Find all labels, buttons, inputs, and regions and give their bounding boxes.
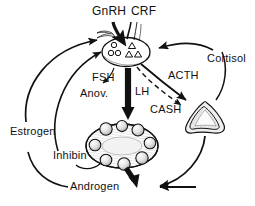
polycystic-ovary bbox=[86, 120, 158, 170]
label-inhibin: Inhibin bbox=[53, 150, 87, 161]
crf-line-2 bbox=[134, 22, 137, 40]
gnrh-arrow bbox=[113, 22, 122, 40]
estrogen-to-pituitary-arrow bbox=[26, 40, 97, 122]
diagram-canvas bbox=[0, 0, 255, 206]
label-androgen: Androgen bbox=[70, 181, 119, 192]
ovary-to-inhibin-line bbox=[76, 164, 100, 169]
adrenal-to-androgen-arrow bbox=[160, 136, 205, 186]
endocrine-feedback-diagram: GnRH CRF FSH Anov. LH ACTH CASH Cortisol… bbox=[0, 0, 255, 206]
crf-line-1 bbox=[127, 22, 131, 39]
lh-arrow-head bbox=[122, 107, 135, 120]
label-estrogen: Estrogen bbox=[10, 126, 56, 137]
label-anov: Anov. bbox=[80, 88, 108, 99]
crf-line-3 bbox=[139, 24, 141, 41]
label-crf: CRF bbox=[131, 5, 156, 17]
pituitary-gland bbox=[97, 31, 150, 66]
adrenal-gland bbox=[186, 102, 225, 134]
cortisol-to-pituitary-arrow bbox=[159, 43, 213, 50]
label-cortisol: Cortisol bbox=[207, 53, 246, 64]
label-lh: LH bbox=[135, 86, 149, 97]
label-fsh: FSH bbox=[92, 72, 115, 83]
label-acth: ACTH bbox=[168, 70, 199, 81]
label-cash: CASH bbox=[150, 104, 181, 115]
label-gnrh: GnRH bbox=[92, 5, 126, 17]
